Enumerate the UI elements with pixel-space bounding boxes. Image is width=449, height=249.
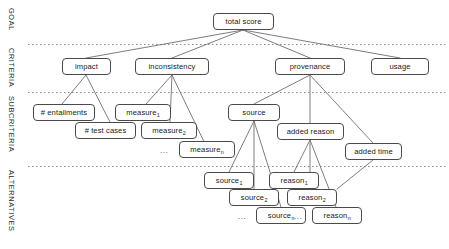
node-label: impact [75,63,98,71]
node-subscript: n [221,149,224,155]
node-source-1[interactable]: source1 [204,172,254,189]
node-subscript: 2 [183,130,186,136]
node-label: # entailments [41,109,87,117]
node-measure-2[interactable]: measure2 [141,122,197,139]
node-label: provenance [290,63,331,71]
node-label: source [216,176,239,185]
ellipsis-source: ... [238,213,246,221]
node-source[interactable]: source [228,104,280,121]
node-label: reason [299,193,323,202]
band-label-subcriteria: SUBCRITERIA [7,96,16,152]
node-subscript: 2 [323,197,326,203]
node-subscript: n [348,215,351,221]
node-reason-2[interactable]: reason2 [287,189,337,206]
ellipsis-measure: ... [160,147,168,155]
node-num-entailments[interactable]: # entailments [33,104,95,121]
node-label: total score [225,18,261,26]
node-label: source [242,109,265,117]
node-label: usage [389,63,410,71]
node-source-2[interactable]: source2 [229,189,279,206]
band-label-alternatives: ALTERNATIVES [7,170,16,232]
node-subscript: 1 [157,112,160,118]
node-label: reason [324,211,348,220]
node-label: inconsistency [149,63,196,71]
node-label: measure [152,126,182,135]
node-added-time[interactable]: added time [345,143,402,160]
node-added-reason[interactable]: added reason [277,123,344,140]
node-label: added reason [287,128,335,136]
node-subscript: 1 [305,180,308,186]
band-label-goal: GOAL [7,8,16,31]
node-label: measure [190,145,220,154]
node-subscript: 2 [264,197,267,203]
node-reason-n[interactable]: reasonn [312,207,362,224]
node-provenance[interactable]: provenance [275,58,345,75]
node-num-test-cases[interactable]: # test cases [75,122,136,139]
node-measure-1[interactable]: measure1 [115,104,171,121]
node-usage[interactable]: usage [371,58,429,75]
band-label-criteria: CRITERIA [7,48,16,87]
node-subscript: 1 [239,180,242,186]
node-label: added time [354,148,393,156]
node-impact[interactable]: impact [62,58,111,75]
ellipsis-reason: ... [294,213,302,221]
node-reason-1[interactable]: reason1 [269,172,319,189]
node-label: # test cases [85,127,127,135]
node-total-score[interactable]: total score [213,13,274,30]
node-label: measure [126,108,156,117]
node-label: source [268,211,291,220]
hierarchy-diagram: GOAL CRITERIA SUBCRITERIA ALTERNATIVES t… [0,0,449,249]
node-label: reason [281,176,305,185]
node-measure-n[interactable]: measuren [179,141,235,158]
node-inconsistency[interactable]: inconsistency [135,58,209,75]
node-label: source [241,193,264,202]
